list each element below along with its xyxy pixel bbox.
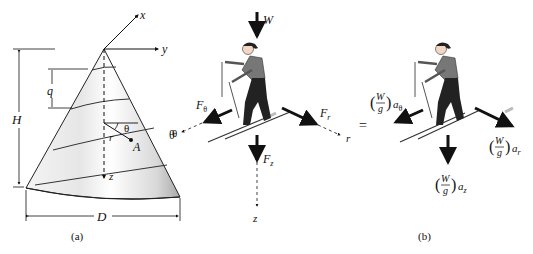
f-r-label: Fr [319,106,331,122]
z-axis-label: z [108,170,114,182]
figure-canvas: x y z θ r A θ H q D (a) [0,0,533,254]
equals-sign: = [359,118,367,133]
z-axis-label-b: z [252,212,258,224]
skier-figure-kinetic [400,42,513,142]
f-z-label: Fz [262,152,274,168]
r-axis-label: r [346,132,351,144]
f-theta-label: Fθ [195,98,207,114]
svg-text:aθ: aθ [393,98,403,113]
svg-text:ar: ar [512,142,522,157]
svg-text:(: ( [435,176,440,194]
svg-text:): ) [386,94,391,112]
svg-text:(: ( [370,94,375,112]
f-theta-arrow [205,110,232,122]
svg-text:g: g [497,147,502,158]
svg-text:az: az [458,180,468,195]
y-axis-label: y [161,42,168,56]
x-axis [104,15,138,49]
skier-figure [208,42,290,142]
cone-surface [26,49,180,199]
ma-z-label: ( W g ) az [435,173,468,196]
panel-b-kinetic: ( W g ) aθ ( W g ) ar ( W g ) az [370,42,522,196]
svg-text:(: ( [489,138,494,156]
x-axis-label: x [139,8,146,22]
theta-label: θ [124,122,129,134]
diameter-label: D [96,209,107,224]
theta-axis-label: θ [172,127,177,139]
pitch-label: q [47,84,53,98]
ma-r-label: ( W g ) ar [489,135,522,158]
svg-text:): ) [451,176,456,194]
caption-a: (a) [71,230,84,243]
svg-text:): ) [505,138,510,156]
point-a-label: A [132,140,141,154]
height-label: H [11,112,22,127]
f-r-arrow [282,108,316,124]
weight-label: W [263,13,274,27]
svg-text:g: g [443,185,448,196]
ma-theta-label: ( W g ) aθ [370,91,403,114]
panel-a-cone: x y z θ r A θ H q D (a) [10,8,180,243]
svg-text:W: W [441,173,451,184]
svg-text:W: W [495,135,505,146]
radius-label: r [109,131,114,143]
svg-text:W: W [376,91,386,102]
svg-text:g: g [378,103,383,114]
panel-b-fbd: W Fθ θ Fr r Fz z [172,12,351,224]
caption-b: (b) [418,230,431,243]
